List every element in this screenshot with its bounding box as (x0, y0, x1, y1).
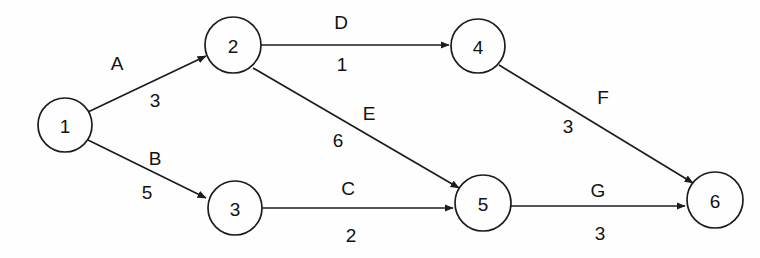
edge-labels-layer: A3B5D1E6C2F3G3 (111, 12, 609, 246)
node-label-4: 4 (473, 37, 484, 58)
edge-label-e: E (363, 103, 376, 124)
edge-label-d: D (334, 12, 348, 33)
edge-f (499, 65, 693, 183)
edge-weight-g: 3 (595, 223, 606, 244)
edge-weight-b: 5 (142, 182, 153, 203)
diagram-canvas: 123456 A3B5D1E6C2F3G3 (0, 0, 760, 258)
edge-label-c: C (341, 178, 355, 199)
node-1[interactable]: 1 (38, 98, 92, 152)
node-4[interactable]: 4 (451, 19, 505, 73)
node-5[interactable]: 5 (455, 175, 511, 231)
node-label-1: 1 (60, 116, 71, 137)
edge-label-a: A (111, 53, 124, 74)
node-label-6: 6 (710, 191, 721, 212)
edge-label-f: F (597, 87, 609, 108)
edge-weight-c: 2 (346, 225, 357, 246)
node-6[interactable]: 6 (687, 172, 743, 228)
node-label-3: 3 (230, 199, 241, 220)
node-label-2: 2 (228, 36, 239, 57)
node-2[interactable]: 2 (205, 17, 261, 73)
node-label-5: 5 (478, 194, 489, 215)
edge-label-b: B (149, 148, 162, 169)
network-graph: 123456 A3B5D1E6C2F3G3 (0, 0, 760, 258)
edge-weight-e: 6 (333, 130, 344, 151)
edge-label-g: G (591, 180, 606, 201)
edge-weight-a: 3 (150, 90, 161, 111)
edge-weight-d: 1 (337, 54, 348, 75)
edge-e (253, 68, 459, 188)
node-3[interactable]: 3 (208, 181, 262, 235)
edge-weight-f: 3 (563, 116, 574, 137)
edge-a (88, 56, 206, 112)
